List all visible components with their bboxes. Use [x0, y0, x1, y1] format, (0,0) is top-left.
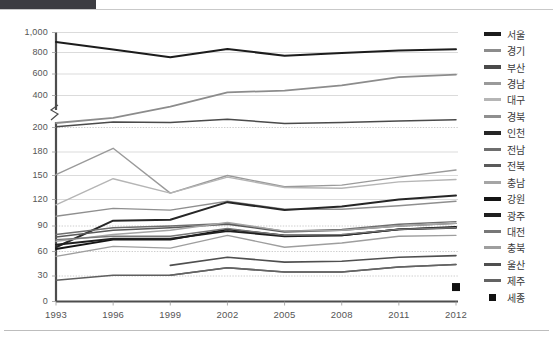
- y-axis-label: 120: [4, 194, 48, 204]
- legend-item[interactable]: 울산: [484, 256, 550, 272]
- y-axis-label: 200: [4, 122, 48, 132]
- x-axis-label: 2011: [376, 309, 422, 320]
- legend-item-label: 전남: [507, 142, 525, 157]
- legend-line-icon: [484, 82, 501, 85]
- chart-screenshot: 1,0008006004002001801501209060300 199319…: [0, 0, 553, 342]
- legend-square-icon: [489, 294, 496, 301]
- legend-item[interactable]: 인천: [484, 125, 550, 141]
- legend-item-label: 충남: [507, 175, 525, 190]
- legend-item[interactable]: 충북: [484, 240, 550, 256]
- legend-line-icon: [484, 32, 501, 36]
- legend-line-icon: [484, 49, 501, 52]
- x-axis-label: 1996: [90, 309, 136, 320]
- legend-line-icon: [484, 131, 501, 135]
- legend-item[interactable]: 충남: [484, 174, 550, 190]
- y-axis-label: 1,000: [4, 27, 48, 37]
- legend-item[interactable]: 제주: [484, 273, 550, 289]
- legend-line-icon: [484, 246, 501, 249]
- x-axis-label: 2002: [204, 309, 250, 320]
- legend-item[interactable]: 전남: [484, 141, 550, 157]
- x-axis-label: 1999: [147, 309, 193, 320]
- series-line: [56, 42, 456, 57]
- legend-item[interactable]: 강원: [484, 190, 550, 206]
- legend-item[interactable]: 경북: [484, 108, 550, 124]
- legend-item-label: 경남: [507, 76, 525, 91]
- legend-item[interactable]: 광주: [484, 207, 550, 223]
- legend-item-label: 충북: [507, 240, 525, 255]
- series-line: [170, 265, 456, 276]
- legend-item-label: 대전: [507, 224, 525, 239]
- legend-item[interactable]: 대전: [484, 223, 550, 239]
- legend-line-icon: [484, 98, 501, 101]
- bottom-divider: [4, 330, 549, 331]
- legend-line-icon: [484, 65, 501, 69]
- series-line: [56, 75, 456, 123]
- x-axis-label: 1993: [33, 309, 79, 320]
- legend-item-label: 부산: [507, 60, 525, 75]
- y-axis-label: 60: [4, 246, 48, 256]
- line-chart-svg: [0, 0, 553, 342]
- legend-item-label: 전북: [507, 158, 525, 173]
- x-axis-label: 2012: [433, 309, 479, 320]
- legend-item-label: 강원: [507, 191, 525, 206]
- legend-item-label: 경기: [507, 43, 525, 58]
- legend-line-icon: [484, 164, 501, 167]
- legend-item-label: 경북: [507, 109, 525, 124]
- series-line: [56, 119, 456, 127]
- legend-item-label: 인천: [507, 125, 525, 140]
- y-axis-label: 150: [4, 170, 48, 180]
- legend-item[interactable]: 대구: [484, 92, 550, 108]
- legend-item[interactable]: 세종: [484, 289, 550, 305]
- y-axis-label: 90: [4, 220, 48, 230]
- x-axis-label: 2008: [319, 309, 365, 320]
- legend-line-icon: [484, 263, 501, 266]
- y-axis-label: 0: [4, 296, 48, 306]
- legend-line-icon: [484, 213, 501, 217]
- series-line: [56, 148, 456, 193]
- legend-line-icon: [484, 197, 501, 201]
- series-line: [170, 256, 456, 266]
- legend-item-label: 세종: [507, 290, 525, 305]
- legend-item[interactable]: 부산: [484, 59, 550, 75]
- legend-line-icon: [484, 181, 501, 184]
- legend-item[interactable]: 경남: [484, 75, 550, 91]
- legend-line-icon: [484, 279, 501, 282]
- plot-area: [0, 0, 553, 342]
- legend-line-icon: [484, 230, 501, 233]
- y-axis-label: 400: [4, 90, 48, 100]
- legend-item[interactable]: 경기: [484, 42, 550, 58]
- y-axis-label: 30: [4, 270, 48, 280]
- legend-line-icon: [484, 115, 501, 118]
- legend-item-label: 광주: [507, 208, 525, 223]
- y-axis-label: 180: [4, 146, 48, 156]
- series-line: [56, 201, 456, 216]
- legend-item[interactable]: 전북: [484, 158, 550, 174]
- legend-item-label: 대구: [507, 92, 525, 107]
- y-axis-label: 800: [4, 47, 48, 57]
- legend-item-label: 울산: [507, 257, 525, 272]
- x-axis-label: 2005: [262, 309, 308, 320]
- legend-item[interactable]: 서울: [484, 26, 550, 42]
- series-marker-sejong: [452, 283, 460, 291]
- chart-legend: 서울경기부산경남대구경북인천전남전북충남강원광주대전충북울산제주세종: [484, 26, 550, 305]
- legend-item-label: 서울: [507, 27, 525, 42]
- y-axis-label: 600: [4, 68, 48, 78]
- legend-line-icon: [484, 148, 501, 151]
- legend-item-label: 제주: [507, 273, 525, 288]
